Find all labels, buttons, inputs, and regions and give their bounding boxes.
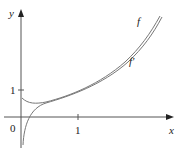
curve-f-prime [23, 17, 162, 145]
curve-f-prime-label: f′ [129, 56, 134, 67]
y-axis-label: y [9, 8, 14, 19]
graph [0, 0, 180, 150]
curve-f-label: f [137, 16, 140, 27]
origin-label: 0 [10, 123, 16, 134]
curve-f [22, 16, 160, 103]
y-axis [18, 9, 24, 148]
x-axis-label: x [169, 125, 174, 136]
x-tick-label: 1 [75, 125, 81, 136]
y-tick-label: 1 [10, 85, 16, 96]
